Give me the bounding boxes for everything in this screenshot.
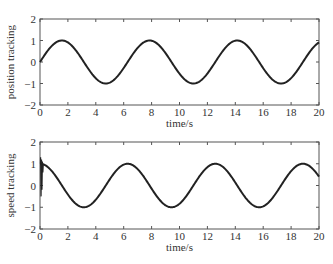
- plot-frame: [40, 142, 319, 229]
- x-tick-label: 4: [93, 230, 99, 242]
- subplot-2: 02468101214161820−2−1012time/sspeed trac…: [4, 136, 325, 253]
- y-axis-label: position tracking: [4, 24, 16, 99]
- y-tick-label: 1: [31, 158, 37, 170]
- y-tick-label: 2: [31, 136, 37, 148]
- x-axis-label: time/s: [166, 117, 193, 129]
- y-tick-label: −1: [24, 78, 36, 90]
- x-tick-label: 2: [65, 230, 71, 242]
- data-line: [40, 164, 319, 208]
- y-tick-label: 2: [31, 13, 37, 25]
- x-tick-label: 0: [37, 230, 43, 242]
- x-tick-label: 18: [286, 230, 298, 242]
- x-tick-label: 4: [93, 106, 99, 118]
- y-tick-label: 1: [31, 35, 37, 47]
- y-tick-label: −2: [24, 223, 36, 235]
- figure: 02468101214161820−2−1012time/sposition t…: [0, 0, 333, 264]
- x-tick-label: 6: [121, 230, 127, 242]
- plot-frame: [40, 19, 319, 105]
- x-axis-label: time/s: [166, 241, 193, 253]
- x-tick-label: 8: [149, 230, 155, 242]
- x-tick-label: 12: [202, 106, 213, 118]
- x-tick-label: 16: [258, 106, 270, 118]
- x-tick-label: 0: [37, 106, 43, 118]
- x-tick-label: 16: [258, 230, 270, 242]
- x-tick-label: 20: [314, 106, 326, 118]
- transient: [41, 157, 44, 196]
- x-tick-label: 6: [121, 106, 127, 118]
- subplot-1: 02468101214161820−2−1012time/sposition t…: [4, 13, 325, 129]
- x-tick-label: 18: [286, 106, 298, 118]
- x-tick-label: 12: [202, 230, 213, 242]
- x-tick-label: 8: [149, 106, 155, 118]
- y-tick-label: 0: [31, 56, 37, 68]
- y-tick-label: −1: [24, 201, 36, 213]
- x-tick-label: 14: [230, 230, 242, 242]
- y-tick-label: −2: [24, 99, 36, 111]
- y-axis-label: speed tracking: [4, 153, 16, 217]
- x-tick-label: 2: [65, 106, 71, 118]
- y-tick-label: 0: [31, 180, 37, 192]
- data-line: [40, 41, 319, 84]
- x-tick-label: 14: [230, 106, 242, 118]
- x-tick-label: 20: [314, 230, 326, 242]
